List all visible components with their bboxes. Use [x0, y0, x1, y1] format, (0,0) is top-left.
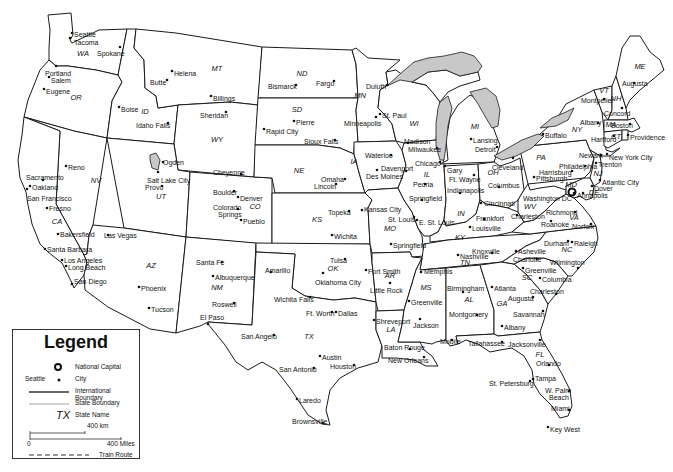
city-marker[interactable]: Denver: [237, 195, 264, 202]
city-marker[interactable]: W. Palm: [545, 387, 571, 394]
city-marker[interactable]: Tallahassee: [468, 340, 505, 347]
city-marker[interactable]: Santa Barbara: [44, 246, 93, 253]
city-marker[interactable]: Detroit: [475, 146, 498, 153]
city-marker[interactable]: Norfolk: [572, 223, 595, 230]
city-marker[interactable]: Louisville: [469, 225, 501, 232]
city-marker[interactable]: Fort Smith: [365, 268, 401, 275]
city-marker[interactable]: Atlanta: [491, 285, 516, 292]
city-marker[interactable]: Pittsburgh: [533, 175, 568, 183]
city-marker[interactable]: Dover: [591, 185, 614, 192]
city-marker[interactable]: Charlotte: [513, 256, 542, 263]
city-marker[interactable]: Pueblo: [240, 218, 265, 225]
city-marker[interactable]: Lansing: [470, 137, 498, 145]
city-marker[interactable]: Tampa: [532, 375, 556, 383]
city-marker[interactable]: New Orleans: [388, 356, 429, 364]
city-marker[interactable]: Annapolis: [577, 192, 608, 200]
city-marker[interactable]: Santa Fe: [196, 259, 225, 266]
state-nd[interactable]: [258, 47, 358, 98]
city-marker[interactable]: Frankfort: [476, 215, 504, 222]
city-marker[interactable]: Roswell: [212, 301, 237, 308]
city-marker[interactable]: Chicago: [415, 160, 441, 168]
city-marker[interactable]: Newark: [579, 152, 603, 159]
city-marker[interactable]: Tulsa: [330, 257, 347, 264]
city-marker[interactable]: Davenport: [381, 165, 413, 173]
city-marker[interactable]: Hartford: [591, 135, 616, 143]
city-marker[interactable]: Idaho Falls: [136, 122, 171, 129]
city-marker[interactable]: Roanoke: [541, 220, 569, 228]
city-marker[interactable]: San Antonio: [279, 366, 317, 373]
city-marker[interactable]: E. St. Louis: [416, 219, 456, 226]
city-marker[interactable]: Charleston: [530, 288, 564, 296]
city-marker[interactable]: Tacoma: [69, 37, 99, 46]
city-marker[interactable]: Sioux Falls: [304, 138, 339, 145]
city-marker[interactable]: Columbia: [539, 276, 572, 283]
city-marker[interactable]: New York City: [606, 153, 653, 162]
city-marker[interactable]: Butte: [150, 79, 168, 86]
city-marker[interactable]: Albany: [580, 119, 602, 127]
city-marker[interactable]: Ft. Wayne: [449, 174, 481, 184]
city-marker[interactable]: Topeka: [328, 209, 351, 217]
city-marker[interactable]: San Diego: [71, 278, 107, 286]
city-marker[interactable]: Columbus: [488, 182, 520, 189]
city-marker[interactable]: Phoenix: [138, 285, 167, 292]
city-marker[interactable]: Gary: [444, 165, 463, 175]
city-marker[interactable]: Bakersfield: [57, 231, 95, 238]
city-marker[interactable]: Omaha: [321, 176, 346, 183]
city-marker[interactable]: Greenville: [408, 299, 443, 306]
city-marker[interactable]: Beach: [549, 394, 569, 401]
city-marker[interactable]: Long Beach: [65, 264, 106, 272]
city-marker[interactable]: Memphis: [420, 268, 453, 276]
city-marker[interactable]: Cheyenne: [213, 169, 245, 177]
city-marker[interactable]: Rapid City: [263, 128, 299, 136]
city-marker[interactable]: Seattle: [71, 31, 96, 38]
city-marker[interactable]: Las Vegas: [104, 232, 137, 240]
city-marker[interactable]: Richmond: [546, 209, 578, 216]
city-marker[interactable]: San Angelo: [241, 333, 277, 341]
city-marker[interactable]: Bismarck: [268, 83, 297, 90]
city-marker[interactable]: Key West: [547, 426, 580, 434]
city-marker[interactable]: Wichita: [331, 233, 357, 240]
city-marker[interactable]: Jacksonville: [508, 339, 546, 348]
city-marker[interactable]: Shreveport: [373, 318, 411, 326]
city-marker[interactable]: Trenton: [595, 161, 622, 168]
city-marker[interactable]: Provo: [145, 184, 163, 191]
city-marker[interactable]: Knoxville: [472, 248, 500, 255]
city-marker[interactable]: Lincoln: [314, 183, 337, 190]
city-marker[interactable]: Kansas City: [361, 206, 402, 214]
city-marker[interactable]: St. Louis: [388, 216, 416, 223]
city-marker[interactable]: Montgomery: [449, 311, 488, 319]
state-me[interactable]: [616, 36, 664, 108]
city-marker[interactable]: Oakland: [29, 184, 58, 191]
city-marker[interactable]: Wichita Falls: [274, 296, 314, 303]
city-marker[interactable]: Providence: [627, 134, 665, 141]
city-marker[interactable]: Boulder: [213, 189, 238, 196]
city-marker[interactable]: Waterloo: [365, 152, 393, 159]
city-marker[interactable]: Austin: [319, 354, 342, 361]
city-marker[interactable]: Asheville: [515, 248, 546, 255]
city-marker[interactable]: St. Petersburg: [489, 380, 534, 388]
city-marker[interactable]: Augusta: [508, 295, 534, 303]
city-marker[interactable]: Mobile: [440, 338, 461, 345]
city-marker[interactable]: Boston: [611, 122, 633, 129]
city-marker[interactable]: Fresno: [46, 205, 71, 212]
city-marker[interactable]: Baton Rouge: [384, 344, 425, 352]
city-marker[interactable]: Colorado: [213, 204, 242, 211]
city-marker[interactable]: Peoria: [413, 181, 433, 188]
city-marker[interactable]: Billings: [210, 95, 236, 103]
city-marker[interactable]: Milwaukee: [408, 146, 441, 153]
city-marker[interactable]: Sacramento: [26, 174, 64, 182]
city-marker[interactable]: Savannah: [513, 310, 545, 318]
city-marker[interactable]: Greenville: [522, 267, 557, 274]
city-marker[interactable]: Springs: [218, 211, 242, 219]
city-marker[interactable]: Springfield: [390, 242, 426, 250]
city-marker[interactable]: Pierre: [293, 119, 315, 126]
city-marker[interactable]: Salem: [48, 76, 71, 84]
city-marker[interactable]: Augusta: [622, 80, 648, 88]
city-marker[interactable]: Reno: [65, 164, 85, 171]
city-marker[interactable]: Ogden: [162, 159, 184, 167]
city-marker[interactable]: Duluth: [366, 83, 388, 90]
city-marker[interactable]: Ft. Worth: [306, 310, 335, 317]
city-marker[interactable]: Cincinnati: [480, 200, 515, 207]
city-marker[interactable]: Houston: [330, 363, 356, 370]
city-marker[interactable]: Albuquerque: [212, 274, 255, 282]
